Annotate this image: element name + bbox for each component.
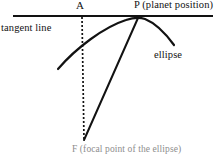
point-p-label: P (planet position) (134, 0, 213, 11)
ellipse-tangent-figure: A P (planet position) tangent line ellip… (0, 0, 219, 155)
focal-point-label: F (focal point of the ellipse) (72, 145, 181, 155)
tangent-line-label: tangent line (1, 23, 51, 34)
point-a-label: A (76, 0, 84, 11)
dotted-vertical-line (82, 17, 84, 140)
ellipse-arc-stroke (58, 18, 174, 69)
ellipse-label: ellipse (154, 50, 182, 61)
focal-radius-line (84, 18, 138, 140)
